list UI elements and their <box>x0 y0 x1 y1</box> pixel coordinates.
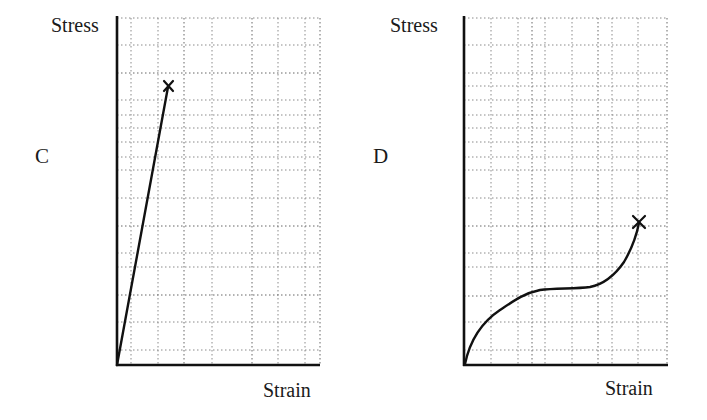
chart-c-curve <box>117 87 168 365</box>
chart-c <box>116 16 320 366</box>
chart-d <box>463 16 668 366</box>
stress-strain-figure <box>0 0 707 420</box>
chart-d-grid <box>464 18 667 364</box>
chart-c-grid <box>117 18 320 364</box>
chart-c-panel-letter: C <box>35 146 49 167</box>
chart-c-x-axis-label: Strain <box>263 380 311 400</box>
chart-c-y-axis-label: Stress <box>51 15 99 35</box>
chart-d-panel-letter: D <box>373 146 388 167</box>
chart-d-x-axis-label: Strain <box>605 378 653 398</box>
chart-d-y-axis-label: Stress <box>390 15 438 35</box>
